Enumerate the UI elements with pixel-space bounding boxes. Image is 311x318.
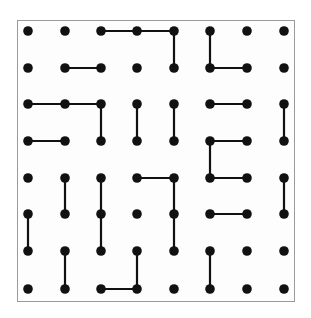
grid-dot[interactable] [205, 246, 215, 256]
grid-dot[interactable] [279, 26, 289, 36]
grid-dot[interactable] [96, 136, 106, 146]
grid-dot[interactable] [132, 246, 142, 256]
grid-dot[interactable] [169, 136, 179, 146]
grid-dot[interactable] [96, 99, 106, 109]
grid-dot[interactable] [279, 284, 289, 294]
grid-dot[interactable] [242, 209, 252, 219]
grid-dot[interactable] [279, 246, 289, 256]
grid-dot[interactable] [279, 136, 289, 146]
grid-dot[interactable] [205, 284, 215, 294]
grid-dot[interactable] [60, 99, 70, 109]
grid-dot[interactable] [23, 26, 33, 36]
grid-dot[interactable] [242, 284, 252, 294]
grid-dot[interactable] [279, 63, 289, 73]
grid-dot[interactable] [242, 63, 252, 73]
grid-dot[interactable] [169, 63, 179, 73]
grid-dot[interactable] [279, 173, 289, 183]
grid-dot[interactable] [96, 173, 106, 183]
grid-dot[interactable] [169, 209, 179, 219]
grid-dot[interactable] [23, 63, 33, 73]
grid-dot[interactable] [23, 246, 33, 256]
grid-dot[interactable] [169, 26, 179, 36]
grid-dot[interactable] [96, 26, 106, 36]
grid-dot[interactable] [96, 63, 106, 73]
grid-dot[interactable] [205, 136, 215, 146]
grid-dot[interactable] [96, 209, 106, 219]
grid-dot[interactable] [242, 246, 252, 256]
grid-dot[interactable] [132, 26, 142, 36]
grid-dot[interactable] [60, 136, 70, 146]
grid-dot[interactable] [242, 99, 252, 109]
grid-dot[interactable] [96, 246, 106, 256]
grid-dot[interactable] [242, 136, 252, 146]
grid-dot[interactable] [60, 63, 70, 73]
grid-dot[interactable] [132, 173, 142, 183]
dot-grid-board[interactable] [0, 0, 311, 318]
grid-dot[interactable] [205, 209, 215, 219]
grid-dot[interactable] [132, 99, 142, 109]
grid-dot[interactable] [132, 63, 142, 73]
grid-dot[interactable] [132, 209, 142, 219]
grid-dot[interactable] [60, 173, 70, 183]
grid-dot[interactable] [23, 173, 33, 183]
grid-dot[interactable] [132, 136, 142, 146]
grid-dot[interactable] [132, 284, 142, 294]
grid-dot[interactable] [169, 284, 179, 294]
grid-dot[interactable] [242, 173, 252, 183]
grid-dot[interactable] [205, 173, 215, 183]
grid-dot[interactable] [279, 209, 289, 219]
grid-dot[interactable] [169, 246, 179, 256]
grid-dot[interactable] [242, 26, 252, 36]
grid-dot[interactable] [169, 99, 179, 109]
grid-dot[interactable] [23, 209, 33, 219]
grid-dot[interactable] [60, 209, 70, 219]
grid-dot[interactable] [60, 246, 70, 256]
grid-dot[interactable] [60, 26, 70, 36]
grid-dot[interactable] [205, 63, 215, 73]
grid-dot[interactable] [23, 99, 33, 109]
grid-dot[interactable] [169, 173, 179, 183]
grid-dot[interactable] [23, 136, 33, 146]
grid-dot[interactable] [23, 284, 33, 294]
grid-dot[interactable] [60, 284, 70, 294]
grid-dot[interactable] [205, 99, 215, 109]
grid-dot[interactable] [96, 284, 106, 294]
grid-dot[interactable] [279, 99, 289, 109]
grid-dot[interactable] [205, 26, 215, 36]
